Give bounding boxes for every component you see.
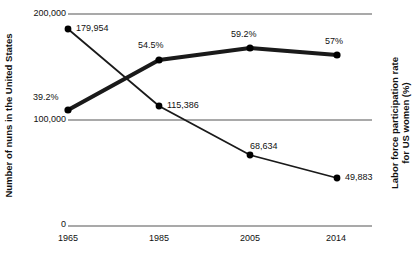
data-point-nuns-2014 — [334, 175, 341, 182]
data-label-labor-1985: 54.5% — [138, 40, 164, 50]
data-point-nuns-2005 — [247, 152, 254, 159]
data-point-nuns-1985 — [156, 103, 163, 110]
data-point-labor-2014 — [333, 51, 340, 58]
data-label-nuns-2005: 68,634 — [250, 141, 278, 151]
series-line-labor-participation — [68, 48, 337, 110]
data-point-nuns-1965 — [65, 26, 72, 33]
data-point-labor-2005 — [246, 44, 253, 51]
plot-area — [0, 0, 414, 254]
data-label-nuns-1985: 115,386 — [167, 100, 199, 110]
data-label-nuns-2014: 49,883 — [345, 172, 373, 182]
chart-container: Number of nuns in the United States Labo… — [0, 0, 414, 254]
data-label-labor-2005: 59.2% — [231, 29, 257, 39]
data-point-labor-1985 — [155, 56, 162, 63]
data-label-labor-1965: 39.2% — [33, 92, 59, 102]
data-label-nuns-1965: 179,954 — [76, 23, 109, 33]
data-point-labor-1965 — [64, 106, 71, 113]
data-label-labor-2014: 57% — [325, 36, 343, 46]
